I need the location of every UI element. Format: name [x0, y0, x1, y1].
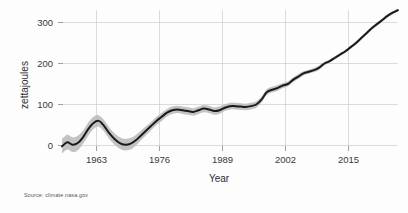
ytick-label-300: 300: [37, 17, 53, 28]
ytick-label-0: 0: [48, 140, 53, 151]
xtick-label-1963: 1963: [86, 154, 107, 165]
y-axis-tickmarks: [58, 23, 63, 146]
vertical-gridlines: [97, 10, 349, 146]
xtick-label-1976: 1976: [149, 154, 170, 165]
ocean-heat-line: [62, 10, 398, 146]
y-axis-title: zettajoules: [19, 61, 30, 109]
ocean-heat-content-chart: 300 200 100 0 1963 1976 1989 2002 2015 z…: [0, 0, 408, 213]
uncertainty-band: [62, 9, 398, 154]
x-axis-title: Year: [209, 173, 230, 184]
xtick-label-1989: 1989: [212, 154, 233, 165]
chart-canvas: 300 200 100 0 1963 1976 1989 2002 2015 z…: [0, 0, 408, 213]
ytick-label-100: 100: [37, 99, 53, 110]
horizontal-gridlines: [62, 23, 398, 146]
ytick-label-200: 200: [37, 58, 53, 69]
xtick-label-2002: 2002: [275, 154, 296, 165]
source-note: Source: climate.nasa.gov: [24, 192, 88, 198]
xtick-label-2015: 2015: [338, 154, 359, 165]
